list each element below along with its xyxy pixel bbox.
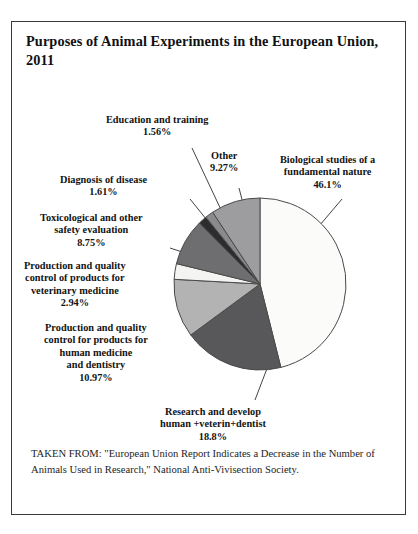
slice-label: Education and training 1.56% bbox=[106, 114, 208, 139]
slice-label-text: Diagnosis of disease bbox=[60, 174, 147, 185]
slice-label-percent: 18.8% bbox=[199, 431, 227, 442]
slice-label-text: Biological studies of a fundamental natu… bbox=[280, 154, 375, 177]
slice-label-percent: 1.56% bbox=[143, 126, 171, 137]
pie-chart-area: Biological studies of a fundamental natu… bbox=[12, 22, 407, 452]
slice-label: Biological studies of a fundamental natu… bbox=[280, 154, 375, 191]
slice-label-text: Research and develop human +veterin+dent… bbox=[160, 406, 266, 429]
source-citation: TAKEN FROM: "European Union Report Indic… bbox=[31, 446, 386, 479]
slice-label-percent: 2.94% bbox=[61, 297, 89, 308]
slice-label: Production and quality control of produc… bbox=[24, 260, 126, 310]
slice-label-text: Other bbox=[211, 150, 237, 161]
slice-label-text: Education and training bbox=[106, 114, 208, 125]
slice-label-text: Production and quality control for produ… bbox=[44, 322, 148, 370]
slice-label-percent: 46.1% bbox=[313, 179, 341, 190]
slice-label-text: Production and quality control of produc… bbox=[24, 260, 126, 296]
slice-label-percent: 10.97% bbox=[79, 372, 112, 383]
slice-label: Research and develop human +veterin+dent… bbox=[160, 406, 266, 443]
slice-label: Diagnosis of disease 1.61% bbox=[60, 174, 147, 199]
slice-label: Other 9.27% bbox=[210, 150, 238, 175]
figure-frame: Purposes of Animal Experiments in the Eu… bbox=[11, 21, 406, 515]
slice-label: Toxicological and other safety evaluatio… bbox=[40, 212, 143, 249]
slice-label-percent: 1.61% bbox=[89, 186, 117, 197]
slice-label-percent: 8.75% bbox=[77, 237, 105, 248]
slice-label-text: Toxicological and other safety evaluatio… bbox=[40, 212, 143, 235]
pie-slices-group bbox=[174, 198, 346, 370]
slice-label: Production and quality control for produ… bbox=[44, 322, 148, 384]
slice-label-percent: 9.27% bbox=[210, 162, 238, 173]
